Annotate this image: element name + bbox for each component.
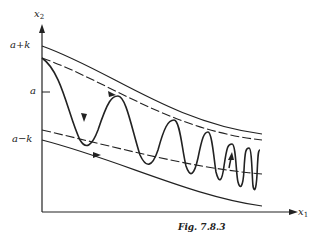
- x-axis-arrow-icon: [289, 209, 298, 215]
- lower-bound-curve: [42, 140, 262, 206]
- y-axis-arrow-icon: [39, 24, 45, 33]
- axes: [42, 30, 292, 212]
- x-axis-label: x1: [298, 206, 308, 219]
- trajectory-curve: [42, 58, 260, 190]
- trajectory-arrow-icon: [81, 113, 87, 122]
- tick-label-a-minus-k: a−k: [12, 133, 32, 144]
- tick-label-a-plus-k: a+k: [10, 39, 30, 50]
- upper-bound-curve: [42, 46, 262, 134]
- y-axis-label: x2: [34, 8, 44, 21]
- tick-label-a: a: [30, 85, 36, 96]
- figure-caption: Fig. 7.8.3: [178, 222, 225, 232]
- phase-plane-figure: x2 x1 a+k a a−k Fig. 7.8.3: [0, 0, 309, 245]
- phase-plane-plot: [0, 0, 309, 245]
- inner-arrow-icon: [228, 152, 234, 160]
